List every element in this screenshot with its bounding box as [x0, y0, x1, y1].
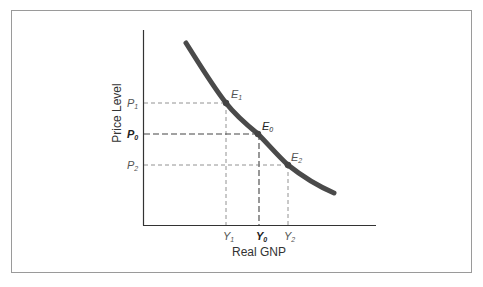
- tick-y2: Y2: [284, 230, 295, 243]
- tick-p0: P0: [127, 128, 138, 141]
- tick-y0: Y0: [256, 230, 267, 243]
- x-axis-title: Real GNP: [232, 245, 286, 259]
- tick-y1: Y1: [223, 230, 234, 243]
- y-axis-title: Price Level: [110, 83, 124, 142]
- point-e0: [255, 131, 261, 137]
- label-e2: E2: [291, 151, 302, 164]
- label-e0: E0: [262, 120, 273, 133]
- tick-p2: P2: [127, 159, 138, 172]
- label-e1: E1: [231, 88, 242, 101]
- point-e1: [223, 100, 229, 106]
- chart: E1 E0 E2 P1 P0 P2 Y1 Y0 Y2 Real GNP Pric…: [0, 0, 483, 287]
- tick-p1: P1: [127, 97, 138, 110]
- demand-curve: [186, 43, 334, 193]
